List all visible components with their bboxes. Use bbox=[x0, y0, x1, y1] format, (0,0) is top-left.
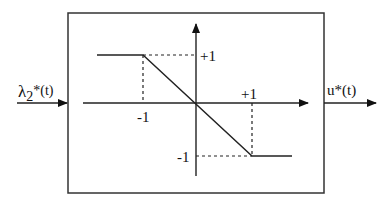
input-label: λ2*(t) bbox=[18, 82, 54, 104]
tick-label-y-pos: +1 bbox=[200, 48, 216, 64]
output-label: u*(t) bbox=[327, 82, 356, 99]
saturation-curve bbox=[97, 55, 292, 156]
tick-label-y-neg: -1 bbox=[177, 149, 190, 165]
block-diagram: λ2*(t) u*(t) +1 -1 +1 -1 bbox=[0, 0, 380, 202]
tick-label-x-pos: +1 bbox=[241, 86, 257, 102]
tick-label-x-neg: -1 bbox=[137, 109, 150, 125]
